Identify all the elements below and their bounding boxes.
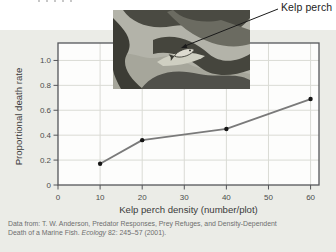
y-tick-label: 0.4 <box>40 131 52 140</box>
data-point <box>98 162 102 166</box>
y-tick-label: 0 <box>47 181 52 190</box>
x-tick-label: 0 <box>56 193 61 202</box>
x-axis-label: Kelp perch density (number/plot) <box>58 204 319 215</box>
citation-line2-suffix: 82: 245–57 (2001). <box>106 229 166 236</box>
x-tick-label: 40 <box>222 193 231 202</box>
data-point <box>224 127 228 131</box>
x-tick-label: 30 <box>180 193 189 202</box>
kelp-perch-arrow <box>0 0 336 110</box>
figure-kelp-perch-death-rate: { "annotation": { "label": "Kelp perch" … <box>0 0 336 252</box>
source-citation: Data from: T. W. Anderson, Predator Resp… <box>8 220 330 237</box>
x-tick-label: 60 <box>306 193 315 202</box>
x-tick-label: 50 <box>264 193 273 202</box>
x-tick-label: 10 <box>96 193 105 202</box>
y-tick-label: 0.2 <box>40 156 52 165</box>
x-tick-label: 20 <box>138 193 147 202</box>
data-point <box>140 138 144 142</box>
citation-line2-prefix: Death of a Marine Fish. <box>8 229 82 236</box>
citation-line1: Data from: T. W. Anderson, Predator Resp… <box>8 220 277 227</box>
kelp-perch-annotation: Kelp perch <box>281 1 332 13</box>
citation-journal-name: Ecology <box>82 229 107 236</box>
